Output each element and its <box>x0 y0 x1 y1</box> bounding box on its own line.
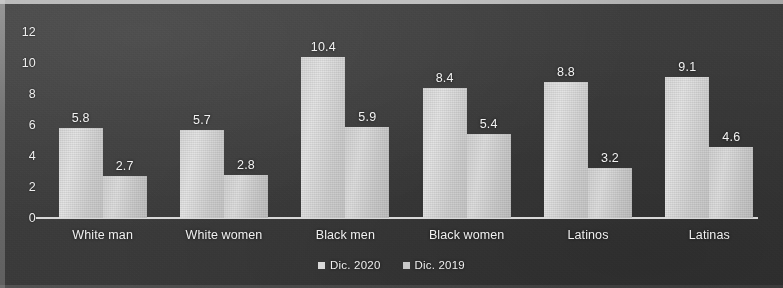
category-label-latinos: Latinos <box>567 228 608 242</box>
bar-group: 10.45.9 <box>301 32 389 218</box>
legend-label: Dic. 2020 <box>330 259 380 271</box>
bar-fill <box>423 88 467 218</box>
y-tick-6: 6 <box>29 118 36 132</box>
bar-fill <box>224 175 268 218</box>
chart-legend: Dic. 2020Dic. 2019 <box>0 259 783 271</box>
bar-fill <box>709 147 753 218</box>
bar-fill <box>59 128 103 218</box>
bar-fill <box>103 176 147 218</box>
category-label-latinas: Latinas <box>689 228 730 242</box>
chart-screenshot: 024681012 5.82.75.72.810.45.98.45.48.83.… <box>0 0 783 288</box>
legend-swatch-icon <box>318 262 325 269</box>
bar-white-man-dic-2019[interactable]: 2.7 <box>103 176 147 218</box>
y-tick-8: 8 <box>29 87 36 101</box>
bar-group: 9.14.6 <box>665 32 753 218</box>
bar-fill <box>665 77 709 218</box>
bar-group: 8.83.2 <box>544 32 632 218</box>
y-tick-2: 2 <box>29 180 36 194</box>
bar-value-label: 8.4 <box>436 71 454 85</box>
bar-black-men-dic-2019[interactable]: 5.9 <box>345 127 389 218</box>
left-border-edge <box>0 0 5 288</box>
legend-item-dic-2020[interactable]: Dic. 2020 <box>318 259 380 271</box>
bar-black-women-dic-2019[interactable]: 5.4 <box>467 134 511 218</box>
bar-group: 5.72.8 <box>180 32 268 218</box>
legend-label: Dic. 2019 <box>415 259 465 271</box>
bar-value-label: 5.7 <box>193 113 211 127</box>
y-axis-tick-labels: 024681012 <box>8 32 36 218</box>
bar-latinos-dic-2020[interactable]: 8.8 <box>544 82 588 218</box>
legend-item-dic-2019[interactable]: Dic. 2019 <box>403 259 465 271</box>
bar-fill <box>301 57 345 218</box>
category-label-black-men: Black men <box>316 228 375 242</box>
bar-value-label: 10.4 <box>311 40 336 54</box>
category-label-black-women: Black women <box>429 228 504 242</box>
bar-fill <box>544 82 588 218</box>
plot-area: 5.82.75.72.810.45.98.45.48.83.29.14.6 <box>40 32 768 218</box>
bar-latinos-dic-2019[interactable]: 3.2 <box>588 168 632 218</box>
bar-group: 8.45.4 <box>423 32 511 218</box>
y-tick-10: 10 <box>22 56 36 70</box>
bar-latinas-dic-2019[interactable]: 4.6 <box>709 147 753 218</box>
bar-white-women-dic-2020[interactable]: 5.7 <box>180 130 224 218</box>
bar-value-label: 4.6 <box>722 130 740 144</box>
y-tick-4: 4 <box>29 149 36 163</box>
bar-white-man-dic-2020[interactable]: 5.8 <box>59 128 103 218</box>
bar-latinas-dic-2020[interactable]: 9.1 <box>665 77 709 218</box>
bar-group: 5.82.7 <box>59 32 147 218</box>
bar-value-label: 3.2 <box>601 151 619 165</box>
bar-fill <box>345 127 389 218</box>
bar-fill <box>467 134 511 218</box>
bar-fill <box>588 168 632 218</box>
bar-black-men-dic-2020[interactable]: 10.4 <box>301 57 345 218</box>
bar-black-women-dic-2020[interactable]: 8.4 <box>423 88 467 218</box>
legend-swatch-icon <box>403 262 410 269</box>
bar-value-label: 5.8 <box>72 111 90 125</box>
bar-value-label: 5.9 <box>358 110 376 124</box>
bar-white-women-dic-2019[interactable]: 2.8 <box>224 175 268 218</box>
category-label-white-man: White man <box>72 228 133 242</box>
bar-fill <box>180 130 224 218</box>
bar-value-label: 9.1 <box>678 60 696 74</box>
bar-value-label: 5.4 <box>480 117 498 131</box>
category-label-white-women: White women <box>186 228 263 242</box>
bar-value-label: 2.8 <box>237 158 255 172</box>
top-border-edge <box>0 0 783 4</box>
y-tick-12: 12 <box>22 25 36 39</box>
bar-value-label: 8.8 <box>557 65 575 79</box>
bar-value-label: 2.7 <box>116 159 134 173</box>
y-tick-0: 0 <box>29 211 36 225</box>
